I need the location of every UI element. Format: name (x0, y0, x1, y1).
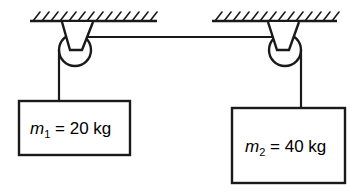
mass-box-2-label: m2 = 40 kg (245, 137, 326, 158)
mass-2-equals: = (265, 137, 284, 156)
pulley-diagram: m1 = 20 kg m2 = 40 kg (0, 0, 361, 196)
mass-2-symbol: m (245, 137, 259, 156)
right-pulley (268, 22, 301, 108)
mass-2-value: 40 (285, 137, 304, 156)
mass-box-2: m2 = 40 kg (232, 108, 345, 183)
mass-1-equals: = (50, 119, 69, 138)
right-ceiling-support (212, 12, 339, 21)
left-pulley (59, 22, 93, 101)
mass-box-1-label: m1 = 20 kg (30, 119, 111, 140)
mass-box-1: m1 = 20 kg (19, 101, 130, 155)
mass-1-value: 20 (70, 119, 89, 138)
diagram-canvas: m1 = 20 kg m2 = 40 kg (0, 0, 361, 196)
right-ceiling-hatching (215, 12, 339, 21)
mass-1-unit: kg (93, 119, 111, 138)
mass-2-unit: kg (308, 137, 326, 156)
left-ceiling-support (30, 12, 157, 21)
mass-1-symbol: m (30, 119, 44, 138)
left-ceiling-hatching (33, 12, 157, 21)
